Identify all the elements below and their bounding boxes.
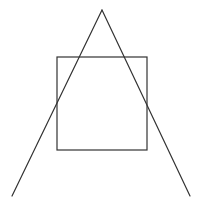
triangle-left-side [12, 10, 102, 196]
square-shape [57, 57, 147, 150]
triangle-square-figure [0, 0, 202, 208]
triangle-right-side [102, 10, 190, 196]
diagram-canvas [0, 0, 202, 208]
